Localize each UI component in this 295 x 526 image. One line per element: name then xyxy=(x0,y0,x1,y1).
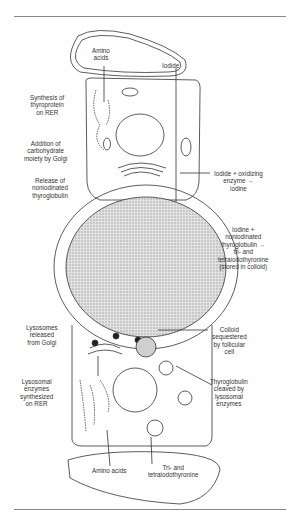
bottom-nucleus xyxy=(113,368,157,412)
label-iodide-top: Iodide xyxy=(162,62,179,69)
label-synthesis: Synthesis of thyroprotein on RER xyxy=(30,94,64,116)
label-colloid-sequestered: Colloid sequestered by follicular cell xyxy=(212,326,247,356)
top-nucleus xyxy=(116,114,164,156)
label-iodide-oxidizing: Iodide + oxidizing enzyme → iodine xyxy=(214,170,263,192)
label-amino-acids-top: Amino acids xyxy=(92,47,110,62)
label-lysosomal-enzymes: Lysosomal enzymes synthesized on RER xyxy=(20,378,53,408)
label-iodine-noniodinated: Iodine + noniodinated thyroglobulin → tr… xyxy=(218,226,268,270)
top-follicular-cell xyxy=(86,78,200,200)
label-lysosomes: Lysosomes released from Golgi xyxy=(26,324,58,346)
label-addition: Addition of carbohydrate moiety by Golgi xyxy=(24,140,67,162)
label-release: Release of noniodinated thyroglobulin xyxy=(32,177,68,199)
label-thyroglobulin-cleaved: Thyroglobulin cleaved by lysosomal enzym… xyxy=(210,378,248,408)
label-amino-acids-bottom: Amino acids xyxy=(92,467,126,474)
label-tri-tetra: Tri- and tetraiodothyronine xyxy=(148,464,198,479)
